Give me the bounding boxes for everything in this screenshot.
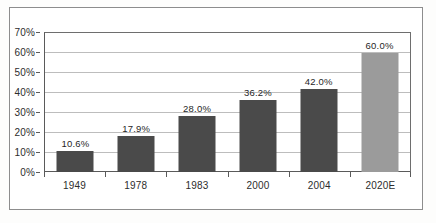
bar[interactable]	[239, 100, 276, 172]
bar[interactable]	[300, 89, 337, 172]
x-axis-tick-mark	[44, 172, 45, 177]
x-axis-tick-mark	[105, 172, 106, 177]
bar-slot: 17.9%	[106, 33, 167, 172]
x-axis-category-label: 1949	[63, 180, 86, 191]
y-axis-tick-mark	[36, 32, 40, 33]
x-axis: 194919781983200020042020E	[44, 180, 411, 196]
y-axis: 0%10%20%30%40%50%60%70%	[0, 32, 40, 172]
y-axis-tick-label: 0%	[20, 167, 35, 178]
x-axis-category-label: 1983	[185, 180, 208, 191]
bar-slot: 42.0%	[288, 33, 349, 172]
y-axis-tick-label: 70%	[14, 27, 35, 38]
bar-series: 10.6%17.9%28.0%36.2%42.0%60.0%	[45, 33, 410, 172]
x-axis-tick-mark	[166, 172, 167, 177]
x-axis-category-label: 2020E	[365, 180, 395, 191]
y-axis-tick-label: 20%	[14, 127, 35, 138]
y-axis-tick-mark	[36, 72, 40, 73]
y-axis-tick-mark	[36, 92, 40, 93]
x-axis-tick-mark	[410, 172, 411, 177]
y-axis-tick-label: 60%	[14, 47, 35, 58]
x-axis-tick-mark	[228, 172, 229, 177]
x-axis-tick-mark	[350, 172, 351, 177]
bar-value-label: 60.0%	[366, 40, 394, 51]
y-axis-tick-mark	[36, 52, 40, 53]
chart-container: 0%10%20%30%40%50%60%70% 10.6%17.9%28.0%3…	[0, 0, 436, 223]
bar-value-label: 10.6%	[61, 138, 89, 149]
y-axis-tick-mark	[36, 172, 40, 173]
x-axis-tick-mark	[289, 172, 290, 177]
bar-value-label: 17.9%	[122, 123, 150, 134]
y-axis-tick-mark	[36, 112, 40, 113]
y-axis-tick-label: 40%	[14, 87, 35, 98]
bar-value-label: 28.0%	[183, 103, 211, 114]
y-axis-tick-mark	[36, 152, 40, 153]
y-axis-tick-mark	[36, 132, 40, 133]
y-axis-tick-label: 50%	[14, 67, 35, 78]
bar[interactable]	[361, 53, 398, 172]
x-axis-ticks	[44, 172, 411, 178]
x-axis-category-label: 2004	[308, 180, 331, 191]
bar-slot: 36.2%	[228, 33, 289, 172]
bar-slot: 60.0%	[349, 33, 410, 172]
bar[interactable]	[57, 151, 94, 172]
bar[interactable]	[118, 136, 155, 172]
bar-value-label: 36.2%	[244, 87, 272, 98]
bar-slot: 10.6%	[45, 33, 106, 172]
bar[interactable]	[179, 116, 216, 172]
y-axis-tick-label: 10%	[14, 147, 35, 158]
bar-slot: 28.0%	[167, 33, 228, 172]
bar-value-label: 42.0%	[305, 76, 333, 87]
x-axis-category-label: 2000	[247, 180, 270, 191]
x-axis-category-label: 1978	[124, 180, 147, 191]
y-axis-tick-label: 30%	[14, 107, 35, 118]
